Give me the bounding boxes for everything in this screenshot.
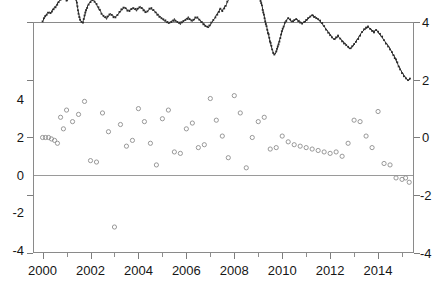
index-line-marker xyxy=(188,18,190,20)
index-line-marker xyxy=(42,21,44,23)
index-line-marker xyxy=(260,2,262,4)
index-line-marker xyxy=(115,16,117,18)
scatter-point xyxy=(94,160,98,164)
index-line-marker xyxy=(144,11,146,13)
index-line-marker xyxy=(103,15,105,17)
scatter-point xyxy=(268,147,272,151)
index-line-marker xyxy=(51,11,53,13)
index-line-marker xyxy=(351,45,353,47)
index-line-marker xyxy=(50,12,52,14)
scatter-point xyxy=(244,166,248,170)
index-line-marker xyxy=(150,7,152,9)
index-line-marker xyxy=(291,20,293,22)
scatter-point xyxy=(262,115,266,119)
scatter-point xyxy=(100,111,104,115)
index-line-marker xyxy=(329,34,331,36)
index-line-marker xyxy=(383,39,385,41)
index-line-marker xyxy=(86,7,88,9)
index-line-marker xyxy=(94,1,96,3)
index-line-marker xyxy=(262,9,264,11)
index-line-marker xyxy=(280,34,282,36)
index-line-marker xyxy=(282,28,284,30)
index-line-marker xyxy=(196,17,198,19)
index-line-marker xyxy=(78,16,80,18)
index-line-marker xyxy=(313,16,315,18)
index-line-marker xyxy=(135,8,137,10)
index-line-marker xyxy=(335,36,337,38)
index-line-marker xyxy=(268,33,270,35)
index-line-marker xyxy=(223,8,225,10)
scatter-point xyxy=(388,163,392,167)
index-line-marker xyxy=(159,16,161,18)
scatter-point xyxy=(208,96,212,100)
index-line-marker xyxy=(82,22,84,24)
index-line-marker xyxy=(391,51,393,53)
index-line-marker xyxy=(349,47,351,49)
index-line-marker xyxy=(265,23,267,25)
index-line-marker xyxy=(117,14,119,16)
index-line-marker xyxy=(182,20,184,22)
scatter-point xyxy=(82,99,86,103)
index-line-marker xyxy=(398,66,400,68)
index-line-marker xyxy=(331,36,333,38)
index-line-marker xyxy=(273,54,275,56)
index-line-marker xyxy=(218,11,220,13)
index-line-marker xyxy=(149,8,151,10)
index-line-marker xyxy=(297,20,299,22)
index-line-marker xyxy=(85,9,87,11)
index-line-marker xyxy=(264,21,266,23)
index-line-marker xyxy=(266,29,268,31)
index-line-marker xyxy=(179,22,181,24)
index-line-marker xyxy=(78,13,80,15)
scatter-point xyxy=(202,143,206,147)
index-line-marker xyxy=(155,11,157,13)
index-line-marker xyxy=(279,37,281,39)
index-line-path xyxy=(43,0,410,80)
index-line-marker xyxy=(289,18,291,20)
series-residual-scatter xyxy=(40,94,411,230)
scatter-point xyxy=(232,94,236,98)
data-layer xyxy=(0,0,448,294)
index-line-marker xyxy=(260,0,262,2)
index-line-marker xyxy=(365,27,367,29)
index-line-marker xyxy=(347,46,349,48)
index-line-marker xyxy=(270,45,272,47)
scatter-point xyxy=(364,134,368,138)
index-line-marker xyxy=(268,37,270,39)
index-line-marker xyxy=(208,25,210,27)
index-line-marker xyxy=(210,22,212,24)
index-line-marker xyxy=(99,9,101,11)
index-line-marker xyxy=(295,18,297,20)
scatter-point xyxy=(160,117,164,121)
index-line-marker xyxy=(143,9,145,11)
index-line-marker xyxy=(293,19,295,21)
index-line-marker xyxy=(266,25,268,27)
index-line-marker xyxy=(101,13,103,15)
index-line-marker xyxy=(127,10,129,12)
scatter-point xyxy=(280,134,284,138)
index-line-marker xyxy=(343,43,345,45)
index-line-marker xyxy=(55,6,57,8)
scatter-point xyxy=(190,121,194,125)
scatter-point xyxy=(226,156,230,160)
index-line-marker xyxy=(339,38,341,40)
index-line-marker xyxy=(395,59,397,61)
index-line-marker xyxy=(264,17,266,19)
scatter-point xyxy=(130,138,134,142)
index-line-marker xyxy=(56,4,58,6)
index-line-marker xyxy=(125,7,127,9)
index-line-marker xyxy=(214,17,216,19)
index-line-marker xyxy=(167,21,169,23)
scatter-point xyxy=(214,118,218,122)
scatter-point xyxy=(124,144,128,148)
index-line-marker xyxy=(53,8,55,10)
scatter-point xyxy=(172,150,176,154)
index-line-marker xyxy=(385,43,387,45)
index-line-marker xyxy=(212,19,214,21)
index-line-marker xyxy=(281,30,283,32)
index-line-marker xyxy=(283,26,285,28)
index-line-marker xyxy=(389,49,391,51)
index-line-marker xyxy=(367,26,369,28)
scatter-point xyxy=(250,135,254,139)
scatter-point xyxy=(238,111,242,115)
